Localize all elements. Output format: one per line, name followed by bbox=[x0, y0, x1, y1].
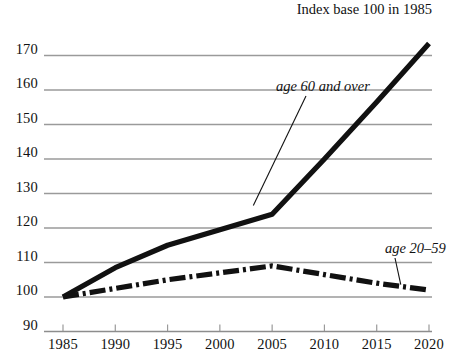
y-tick-label: 170 bbox=[4, 41, 38, 58]
y-tick-label: 120 bbox=[4, 213, 38, 230]
series-label-age-60-and-over: age 60 and over bbox=[276, 78, 370, 95]
x-tick-label: 1985 bbox=[37, 336, 89, 353]
y-tick-label: 140 bbox=[4, 144, 38, 161]
data-series-group bbox=[63, 43, 429, 297]
y-tick-label: 110 bbox=[4, 248, 38, 265]
series-label-age-20-59: age 20–59 bbox=[385, 240, 446, 257]
x-tick-label: 2000 bbox=[194, 336, 246, 353]
y-tick-label: 150 bbox=[4, 110, 38, 127]
x-tick-label: 1990 bbox=[89, 336, 141, 353]
y-tick-label: 130 bbox=[4, 179, 38, 196]
x-tick-label: 1995 bbox=[142, 336, 194, 353]
x-tick-label: 2005 bbox=[246, 336, 298, 353]
x-tick-marks-group bbox=[63, 325, 429, 332]
x-tick-label: 2010 bbox=[298, 336, 350, 353]
series-line-age-20-59 bbox=[63, 266, 429, 297]
y-tick-label: 90 bbox=[4, 317, 38, 334]
x-tick-label: 2020 bbox=[403, 336, 451, 353]
y-tick-label: 100 bbox=[4, 282, 38, 299]
x-tick-label: 2015 bbox=[351, 336, 403, 353]
y-tick-label: 160 bbox=[4, 75, 38, 92]
series-line-age-60-and-over bbox=[63, 43, 429, 297]
gridlines-group bbox=[44, 56, 432, 298]
